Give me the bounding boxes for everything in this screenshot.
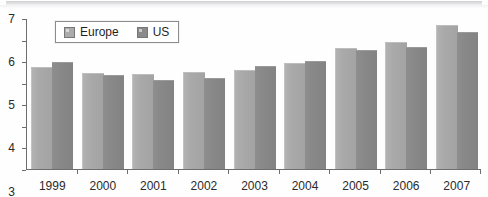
x-category-label-1999: 1999 xyxy=(39,179,66,193)
x-tick-boundary-end xyxy=(480,170,481,174)
x-axis-line xyxy=(26,169,481,170)
x-category-label-2001: 2001 xyxy=(140,179,167,193)
bar-group-2003 xyxy=(234,19,276,169)
x-category-label-2000: 2000 xyxy=(89,179,116,193)
bar-us-2005 xyxy=(356,50,377,169)
bar-chart: 01234567 1999200020012002200320042005200… xyxy=(0,0,488,197)
y-tick-1: 1 xyxy=(22,148,26,149)
scan-artifact-strip-secondary xyxy=(0,5,488,8)
x-tick-boundary-1 xyxy=(77,170,78,174)
bar-us-2002 xyxy=(204,78,225,169)
bar-europe-2007 xyxy=(436,25,458,169)
bar-europe-2003 xyxy=(234,70,256,169)
bar-us-2006 xyxy=(406,47,427,169)
legend-label-europe: Europe xyxy=(80,25,119,39)
y-axis-line xyxy=(26,19,27,170)
legend-item-europe: Europe xyxy=(64,25,119,39)
x-category-label-2007: 2007 xyxy=(443,179,470,193)
y-tick-7: 7 xyxy=(22,19,26,20)
bar-group-2004 xyxy=(284,19,326,169)
x-category-label-2004: 2004 xyxy=(292,179,319,193)
x-tick-boundary-8 xyxy=(430,170,431,174)
bar-europe-2005 xyxy=(335,48,357,169)
x-category-label-2006: 2006 xyxy=(393,179,420,193)
bar-us-2000 xyxy=(103,75,124,169)
y-tick-6: 6 xyxy=(22,41,26,42)
x-tick-boundary-2 xyxy=(127,170,128,174)
chart-legend: Europe US xyxy=(55,21,179,43)
bar-europe-2006 xyxy=(385,42,407,169)
y-tick-label-5: 5 xyxy=(8,98,15,112)
x-category-label-2005: 2005 xyxy=(342,179,369,193)
x-category-label-2003: 2003 xyxy=(241,179,268,193)
bar-us-2007 xyxy=(457,32,478,169)
bar-europe-2002 xyxy=(183,72,205,169)
bar-europe-1999 xyxy=(31,67,53,169)
bar-us-2003 xyxy=(255,66,276,169)
x-tick-boundary-3 xyxy=(178,170,179,174)
y-tick-0: 0 xyxy=(22,170,26,171)
y-tick-4: 4 xyxy=(22,84,26,85)
bar-group-2007 xyxy=(436,19,478,169)
bar-europe-2000 xyxy=(82,73,104,169)
bar-group-2006 xyxy=(385,19,427,169)
legend-item-us: US xyxy=(137,25,170,39)
y-tick-label-6: 6 xyxy=(8,55,15,69)
x-tick-boundary-4 xyxy=(228,170,229,174)
x-category-label-2002: 2002 xyxy=(191,179,218,193)
bar-us-2004 xyxy=(305,61,326,169)
y-tick-2: 2 xyxy=(22,127,26,128)
bar-group-2002 xyxy=(183,19,225,169)
bar-europe-2004 xyxy=(284,63,306,169)
legend-swatch-europe-icon xyxy=(64,27,75,38)
y-tick-5: 5 xyxy=(22,62,26,63)
y-tick-label-4: 4 xyxy=(8,141,15,155)
y-tick-label-3: 3 xyxy=(8,185,15,197)
bar-europe-2001 xyxy=(132,74,154,169)
x-tick-boundary-5 xyxy=(279,170,280,174)
legend-label-us: US xyxy=(153,25,170,39)
y-tick-label-7: 7 xyxy=(8,12,15,26)
bar-us-1999 xyxy=(52,62,73,169)
bar-group-2005 xyxy=(335,19,377,169)
x-tick-boundary-7 xyxy=(380,170,381,174)
x-tick-boundary-6 xyxy=(329,170,330,174)
legend-swatch-us-icon xyxy=(137,27,148,38)
y-tick-3: 3 xyxy=(22,105,26,106)
bar-us-2001 xyxy=(153,80,174,169)
